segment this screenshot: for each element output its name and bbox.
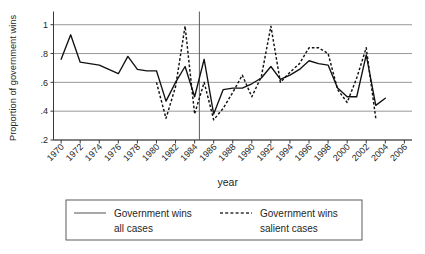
- y-tick-label-.6: .6: [40, 78, 48, 88]
- x-tick-label-1980: 1980: [140, 142, 161, 163]
- x-tick-label-2002: 2002: [350, 142, 371, 163]
- x-tick-label-1998: 1998: [312, 142, 333, 163]
- y-tick-label-.8: .8: [40, 49, 48, 59]
- x-tick-label-2000: 2000: [331, 142, 352, 163]
- y-axis-title: Proportion of government wins: [8, 15, 18, 141]
- legend-box: [66, 200, 362, 240]
- legend-label-0-line1: Government wins: [114, 208, 192, 219]
- x-tick-label-1984: 1984: [178, 142, 199, 163]
- x-tick-label-1986: 1986: [197, 142, 218, 163]
- x-tick-label-2006: 2006: [388, 142, 409, 163]
- x-tick-label-2004: 2004: [369, 142, 390, 163]
- x-tick-label-1996: 1996: [293, 142, 314, 163]
- x-axis-title: year: [218, 176, 239, 188]
- chart-figure: .2.4.6.811970197219741976197819801982198…: [0, 0, 425, 254]
- x-tick-label-1994: 1994: [274, 142, 295, 163]
- x-tick-label-1976: 1976: [102, 142, 123, 163]
- government-wins-line-chart: .2.4.6.811970197219741976197819801982198…: [0, 0, 425, 254]
- y-tick-label-.2: .2: [40, 135, 48, 145]
- legend-label-0-line2: all cases: [114, 223, 153, 234]
- x-tick-label-1972: 1972: [64, 142, 85, 163]
- x-tick-label-1988: 1988: [216, 142, 237, 163]
- x-tick-label-1992: 1992: [255, 142, 276, 163]
- legend-label-1-line2: salient cases: [260, 223, 318, 234]
- y-tick-label-.4: .4: [40, 106, 48, 116]
- series-line-all-cases: [61, 35, 385, 114]
- x-tick-label-1982: 1982: [159, 142, 180, 163]
- x-tick-label-1978: 1978: [121, 142, 142, 163]
- legend-label-1-line1: Government wins: [260, 208, 338, 219]
- x-tick-label-1974: 1974: [83, 142, 104, 163]
- y-tick-label-1: 1: [43, 20, 48, 30]
- x-tick-label-1990: 1990: [235, 142, 256, 163]
